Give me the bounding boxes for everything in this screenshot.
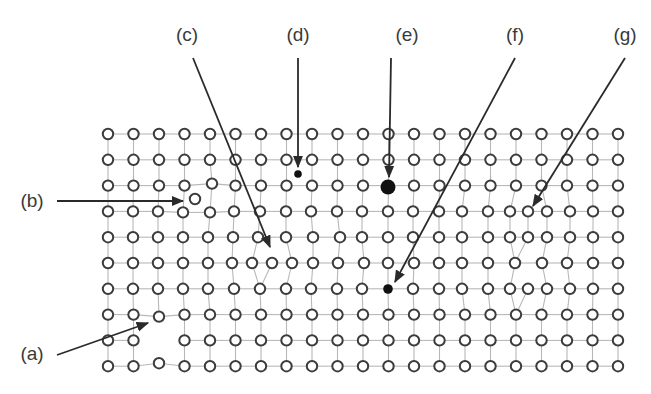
lattice-atom <box>153 232 163 242</box>
interstitial-atom <box>190 194 200 204</box>
lattice-atom <box>307 335 317 345</box>
lattice-atom <box>537 258 547 268</box>
lattice-atom <box>587 180 597 190</box>
lattice-atom <box>409 129 419 139</box>
lattice-atom <box>256 335 266 345</box>
lattice-atom <box>179 335 189 345</box>
lattice-atom <box>308 258 318 268</box>
lattice-atom <box>588 232 598 242</box>
lattice-atom <box>103 180 113 190</box>
lattice-atom <box>357 206 367 216</box>
lattice-atom <box>203 284 213 294</box>
lattice-atom <box>205 207 215 217</box>
lattice-atom <box>613 309 623 319</box>
lattice-atom <box>153 258 163 268</box>
lattice-atom <box>307 155 317 165</box>
lattice-atom <box>128 155 138 165</box>
lattice-atom <box>383 206 393 216</box>
lattice-atom <box>383 361 393 371</box>
lattice-atom <box>281 232 291 242</box>
arrow-c-icon <box>193 58 270 247</box>
lattice-atom <box>565 232 575 242</box>
lattice-atom <box>358 361 368 371</box>
lattice-atom <box>483 284 493 294</box>
lattice-atom <box>359 258 369 268</box>
lattice-atom <box>307 361 317 371</box>
lattice-atom <box>281 309 291 319</box>
lattice-atom <box>332 335 342 345</box>
lattice-atom <box>536 309 546 319</box>
lattice-atom <box>505 232 515 242</box>
lattice-atom <box>227 258 237 268</box>
lattice-atom <box>253 232 263 242</box>
lattice-atom <box>587 155 597 165</box>
lattice-atom <box>281 155 291 165</box>
lattice-atom <box>357 284 367 294</box>
lattice-atom <box>613 361 623 371</box>
lattice-atom <box>103 309 113 319</box>
lattice-atom <box>103 129 113 139</box>
lattice-atom <box>178 284 188 294</box>
lattice-atom <box>485 361 495 371</box>
lattice-atom <box>256 155 266 165</box>
lattice-atom <box>483 232 493 242</box>
lattice-atom <box>485 335 495 345</box>
lattice-atom <box>128 309 138 319</box>
lattice-atom <box>358 309 368 319</box>
lattice-atom <box>383 129 393 139</box>
lattice-atom <box>457 232 467 242</box>
lattice-atom <box>207 178 217 188</box>
lattice-atom <box>128 129 138 139</box>
lattice-atom <box>613 258 623 268</box>
lattice-atom <box>103 284 113 294</box>
lattice-atom <box>332 309 342 319</box>
lattice-atom <box>332 361 342 371</box>
lattice-atom <box>434 361 444 371</box>
large-substitutional-atom <box>381 180 396 195</box>
lattice-atom <box>505 284 515 294</box>
lattice-atom <box>179 309 189 319</box>
lattice-atom <box>587 129 597 139</box>
lattice-atom <box>308 232 318 242</box>
lattice-atom <box>460 335 470 345</box>
lattice-atom <box>335 232 345 242</box>
lattice-atom <box>457 284 467 294</box>
lattice-atom <box>128 361 138 371</box>
lattice-atom <box>256 180 266 190</box>
lattice-atom <box>179 180 189 190</box>
lattice-atom <box>434 284 444 294</box>
lattice-atom <box>128 232 138 242</box>
lattice-atom <box>409 180 419 190</box>
label-e-large-substitution: (e) <box>395 24 418 46</box>
lattice-atom <box>383 258 393 268</box>
lattice-atom <box>587 361 597 371</box>
lattice-atom <box>153 284 163 294</box>
lattice-atom <box>588 258 598 268</box>
lattice-atom <box>613 335 623 345</box>
label-c-edge-dislocation: (c) <box>176 24 198 46</box>
lattice-atom <box>434 232 444 242</box>
lattice-atom <box>153 206 163 216</box>
lattice-atom <box>485 309 495 319</box>
lattice-atom <box>511 155 521 165</box>
lattice-atom <box>358 129 368 139</box>
lattice-atom <box>587 309 597 319</box>
lattice-atom <box>542 206 552 216</box>
lattice-atom <box>205 335 215 345</box>
lattice-atom <box>383 309 393 319</box>
lattice-atom <box>228 232 238 242</box>
lattice-atom <box>281 180 291 190</box>
small-impurity-atom <box>294 170 302 178</box>
lattice-atom <box>203 232 213 242</box>
lattice-atom <box>281 335 291 345</box>
lattice-atom <box>103 155 113 165</box>
lattice-atom <box>383 335 393 345</box>
lattice-atom <box>565 206 575 216</box>
lattice-atom <box>230 309 240 319</box>
lattice-atom <box>230 180 240 190</box>
lattice-atom <box>229 284 239 294</box>
lattice-atom <box>460 309 470 319</box>
lattice-atom <box>613 180 623 190</box>
lattice-atom <box>205 361 215 371</box>
label-d-small-impurity: (d) <box>286 24 309 46</box>
